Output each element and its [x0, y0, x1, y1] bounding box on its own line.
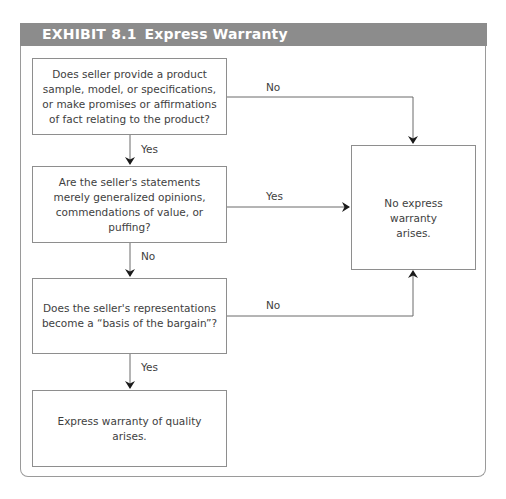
node-q2-text: Are the seller's statements merely gener… [41, 175, 218, 235]
edge-label-q3-r2: No [266, 299, 280, 311]
edge-label-q1-r2: No [266, 81, 280, 93]
node-q1-text: Does seller provide a product sample, mo… [41, 67, 218, 127]
node-r2-text: No express warranty arises. [372, 196, 455, 241]
node-q3: Does the seller's representations become… [32, 278, 227, 354]
edge-label-q1-q2: Yes [141, 143, 158, 155]
node-r1-text: Express warranty of quality arises. [41, 414, 218, 444]
node-r1: Express warranty of quality arises. [32, 390, 227, 467]
node-q1: Does seller provide a product sample, mo… [32, 58, 227, 135]
edge-q1-r2 [226, 97, 413, 143]
edge-label-q2-r2: Yes [266, 190, 283, 202]
node-q3-text: Does the seller's representations become… [41, 301, 218, 331]
edge-label-q3-r1: Yes [141, 361, 158, 373]
edge-q3-r2 [226, 271, 413, 316]
edge-label-q2-q3: No [141, 250, 155, 262]
node-q2: Are the seller's statements merely gener… [32, 166, 227, 243]
node-r2: No express warranty arises. [351, 145, 476, 270]
